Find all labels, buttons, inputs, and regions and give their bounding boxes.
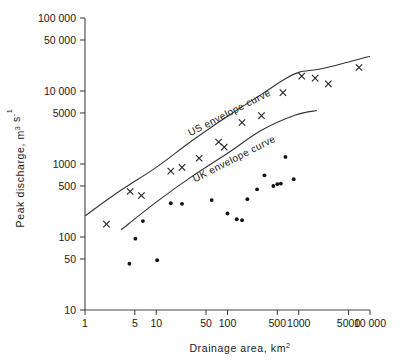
data-point-dot [284,155,288,159]
data-point-dot [271,184,275,188]
data-point-dot [141,219,145,223]
y-tick-label: 5000 [53,107,77,119]
data-point-cross [239,119,245,125]
x-tick-label: 1000 [287,317,311,329]
data-point-dot [128,262,132,266]
data-point-dot [210,198,214,202]
data-point-cross [280,89,286,95]
data-point-cross [258,112,264,118]
y-tick-label: 100 [58,231,76,243]
y-axis-title: Peak discharge, m3 s-1 [5,109,26,228]
y-tick-label: 10 000 [44,85,76,97]
x-tick-label: 10 000 [354,317,386,329]
y-tick-label: 1000 [53,158,77,170]
x-tick-label: 500 [269,317,287,329]
data-point-dot [169,201,173,205]
x-tick-label: 5 [132,317,138,329]
y-tick-label: 50 000 [44,34,76,46]
data-point-dot [292,177,296,181]
data-point-dot [180,202,184,206]
x-tick-label: 50 [200,317,212,329]
data-point-dot [226,212,230,216]
curve-label: US envelope curve [186,87,272,138]
data-point-dot [235,217,239,221]
data-point-cross [138,192,144,198]
data-point-dot [275,182,279,186]
envelope-curve [85,56,370,216]
data-point-dot [263,173,267,177]
x-axis-title: Drainage area, km2 [189,341,290,354]
data-point-dot [240,218,244,222]
data-point-cross [312,75,318,81]
flood-envelope-chart: 10501005001000500010 00050 000100 000 15… [0,0,414,364]
x-tick-label: 100 [219,317,237,329]
data-point-dot [279,182,283,186]
y-tick-label: 10 [64,304,76,316]
data-point-cross [356,64,362,70]
data-point-dot [255,187,259,191]
y-tick-label: 100 000 [38,12,76,24]
data-point-cross [103,221,109,227]
x-axis: 1510501005001000500010 000 [82,310,386,329]
data-point-cross [221,144,227,150]
data-point-cross [168,168,174,174]
data-point-dot [155,258,159,262]
chart-canvas: 10501005001000500010 00050 000100 000 15… [0,0,414,364]
data-point-cross [298,73,304,79]
y-tick-label: 50 [64,253,76,265]
y-tick-label: 500 [58,180,76,192]
x-tick-label: 1 [82,317,88,329]
data-point-cross [179,164,185,170]
x-tick-label: 10 [150,317,162,329]
data-point-cross [325,81,331,87]
data-point-dot [245,197,249,201]
data-point-dot [134,237,138,241]
data-point-cross [127,188,133,194]
data-point-cross [196,155,202,161]
y-axis: 10501005001000500010 00050 000100 000 [38,12,85,316]
